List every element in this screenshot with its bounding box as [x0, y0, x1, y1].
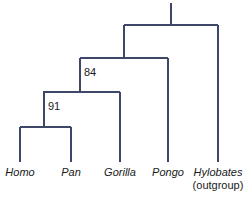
taxon-label-hylobates: Hylobates (outgroup) — [193, 166, 244, 192]
phylogenetic-tree-figure: 91 84 Homo Pan Gorilla Pongo Hylobates (… — [0, 0, 252, 200]
taxon-name-hylobates: Hylobates — [194, 166, 243, 178]
taxon-name-homo: Homo — [5, 166, 34, 178]
taxon-label-pan: Pan — [61, 166, 81, 179]
support-value-homo-pan-gorilla: 84 — [84, 67, 96, 78]
taxon-label-homo: Homo — [5, 166, 34, 179]
taxon-name-gorilla: Gorilla — [104, 166, 136, 178]
taxon-qualifier-outgroup: (outgroup) — [193, 179, 244, 192]
taxon-label-gorilla: Gorilla — [104, 166, 136, 179]
support-value-homo-pan: 91 — [48, 101, 60, 112]
taxon-label-pongo: Pongo — [152, 166, 184, 179]
taxon-name-pongo: Pongo — [152, 166, 184, 178]
taxon-name-pan: Pan — [61, 166, 81, 178]
